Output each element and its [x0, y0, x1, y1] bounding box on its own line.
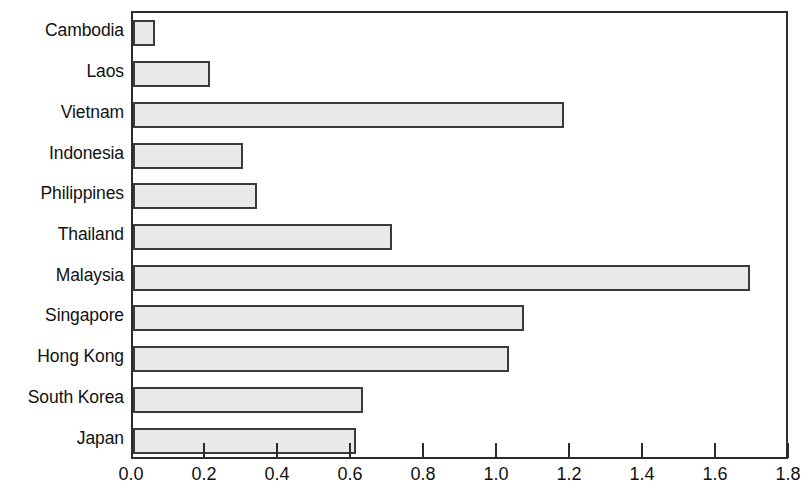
y-axis-label-vietnam: Vietnam: [0, 104, 124, 122]
x-tick-0.2: [203, 443, 205, 458]
bar-malaysia: [133, 265, 750, 291]
x-tick-0.4: [276, 443, 278, 458]
x-tick-label-0.2: 0.2: [191, 465, 216, 483]
x-axis-ticks: [131, 443, 788, 459]
x-tick-label-1.2: 1.2: [556, 465, 581, 483]
bar-thailand: [133, 224, 392, 250]
bars-layer: [133, 13, 786, 457]
x-tick-1.6: [714, 443, 716, 458]
x-tick-label-1.0: 1.0: [483, 465, 508, 483]
x-axis-tick-labels: 0.00.20.40.60.81.01.21.41.61.8: [131, 465, 788, 493]
x-tick-label-1.6: 1.6: [702, 465, 727, 483]
y-axis-label-hong-kong: Hong Kong: [0, 348, 124, 366]
y-axis-label-cambodia: Cambodia: [0, 22, 124, 40]
bar-vietnam: [133, 102, 564, 128]
y-axis-label-thailand: Thailand: [0, 226, 124, 244]
y-axis-label-malaysia: Malaysia: [0, 267, 124, 285]
x-tick-label-0.4: 0.4: [264, 465, 289, 483]
y-axis-label-singapore: Singapore: [0, 307, 124, 325]
bar-chart: CambodiaLaosVietnamIndonesiaPhilippinesT…: [0, 0, 808, 495]
bar-south-korea: [133, 387, 363, 413]
x-tick-label-1.8: 1.8: [775, 465, 800, 483]
x-tick-label-0.6: 0.6: [337, 465, 362, 483]
y-axis-label-indonesia: Indonesia: [0, 145, 124, 163]
y-axis-label-south-korea: South Korea: [0, 389, 124, 407]
bar-hong-kong: [133, 346, 509, 372]
y-axis-label-laos: Laos: [0, 63, 124, 81]
y-axis-label-japan: Japan: [0, 430, 124, 448]
bar-singapore: [133, 305, 524, 331]
x-tick-1.4: [641, 443, 643, 458]
x-tick-1.2: [568, 443, 570, 458]
x-tick-label-1.4: 1.4: [629, 465, 654, 483]
bar-indonesia: [133, 143, 243, 169]
bar-philippines: [133, 183, 257, 209]
x-tick-1.8: [787, 443, 789, 458]
y-axis-category-labels: CambodiaLaosVietnamIndonesiaPhilippinesT…: [0, 0, 124, 458]
plot-area: [131, 11, 788, 459]
y-axis-label-philippines: Philippines: [0, 185, 124, 203]
x-tick-1.0: [495, 443, 497, 458]
x-tick-0.8: [422, 443, 424, 458]
x-tick-label-0.8: 0.8: [410, 465, 435, 483]
x-tick-0.6: [349, 443, 351, 458]
bar-cambodia: [133, 20, 155, 46]
x-tick-label-0.0: 0.0: [118, 465, 143, 483]
bar-laos: [133, 61, 210, 87]
